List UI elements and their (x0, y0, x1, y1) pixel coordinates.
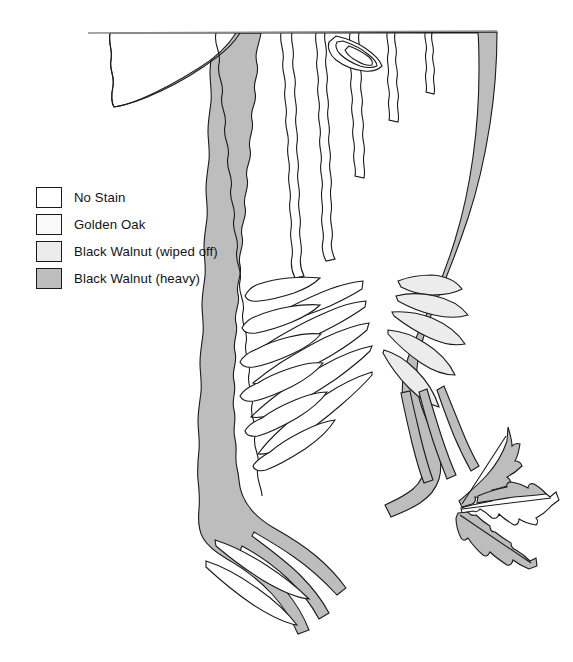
legend-label-golden-oak: Golden Oak (74, 218, 145, 231)
legend-label-black-walnut-wiped-off: Black Walnut (wiped off) (74, 245, 218, 258)
swatch-black-walnut-heavy (36, 268, 62, 289)
legend-row-no-stain: No Stain (36, 184, 256, 211)
swatch-black-walnut-wiped-off (36, 241, 62, 262)
swatch-golden-oak (36, 214, 62, 235)
detached-leaf-motif (456, 427, 559, 569)
stain-legend: No Stain Golden Oak Black Walnut (wiped … (36, 184, 256, 292)
legend-row-golden-oak: Golden Oak (36, 211, 256, 238)
legend-row-black-walnut-heavy: Black Walnut (heavy) (36, 265, 256, 292)
legend-label-black-walnut-heavy: Black Walnut (heavy) (74, 272, 200, 285)
swatch-no-stain (36, 187, 62, 208)
figure-root: .gray { fill: #bdbdbd; stroke: #1a1a1a; … (0, 0, 573, 662)
wood-grain-diagram: .gray { fill: #bdbdbd; stroke: #1a1a1a; … (0, 0, 573, 662)
legend-label-no-stain: No Stain (74, 191, 125, 204)
legend-row-black-walnut-wiped-off: Black Walnut (wiped off) (36, 238, 256, 265)
